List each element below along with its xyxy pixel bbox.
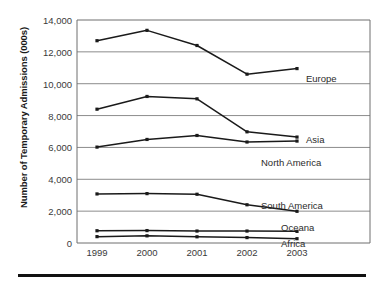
series-label-south-america: South America xyxy=(261,200,323,211)
series-label-africa: Africa xyxy=(281,238,305,249)
chart-figure: Number of Temporary Admissions (000s) 02… xyxy=(0,0,384,288)
series-label-north-america: North America xyxy=(261,157,321,168)
series-labels: EuropeAsiaNorth AmericaSouth AmericaOcea… xyxy=(0,0,384,288)
series-label-asia: Asia xyxy=(306,134,324,145)
bottom-divider-rule xyxy=(18,274,366,277)
series-label-europe: Europe xyxy=(306,73,337,84)
series-label-oceana: Oceana xyxy=(281,222,314,233)
